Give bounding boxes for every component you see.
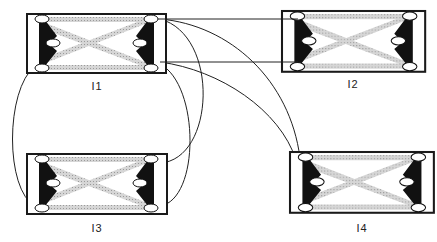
wire-i1-i4-outer (160, 19, 300, 158)
module-i4 (290, 152, 434, 213)
wire-i1-i4-inner (160, 62, 296, 160)
wire-overlays (158, 19, 298, 62)
interconnect-diagram (0, 0, 437, 242)
module-label-i1: I1 (77, 80, 117, 92)
module-label-i2: I2 (333, 78, 373, 90)
module-i3 (27, 154, 167, 214)
module-label-i3: I3 (77, 222, 117, 234)
module-i2 (282, 11, 425, 72)
module-label-i4: I4 (342, 222, 382, 234)
module-i1 (27, 14, 166, 73)
